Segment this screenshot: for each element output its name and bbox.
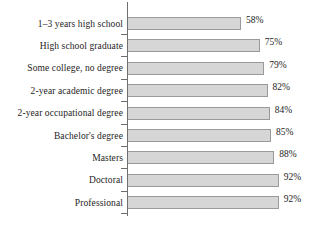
- bar: [128, 174, 279, 187]
- bar: [128, 39, 260, 52]
- category-label: Doctoral: [0, 175, 123, 186]
- category-label: Masters: [0, 153, 123, 164]
- bar-row: Bachelor's degree85%: [0, 125, 323, 147]
- bar-row: 2-year academic degree82%: [0, 80, 323, 102]
- bar: [128, 196, 279, 209]
- bar-value-label: 84%: [275, 104, 292, 116]
- bar-row: Some college, no degree79%: [0, 58, 323, 80]
- bar-container: [128, 39, 260, 52]
- bar-value-label: 92%: [284, 171, 301, 183]
- bar: [128, 62, 264, 75]
- category-label: High school graduate: [0, 41, 123, 52]
- bar-container: [128, 62, 264, 75]
- bar-value-label: 82%: [273, 81, 290, 93]
- bar-container: [128, 196, 279, 209]
- bar: [128, 17, 241, 30]
- bar-container: [128, 84, 268, 97]
- bar-row: High school graduate75%: [0, 35, 323, 57]
- bar-container: [128, 107, 270, 120]
- bar-row: 1–3 years high school58%: [0, 13, 323, 35]
- bar: [128, 107, 270, 120]
- bar: [128, 151, 274, 164]
- bar: [128, 84, 268, 97]
- bar-value-label: 92%: [284, 193, 301, 205]
- bar-value-label: 88%: [279, 148, 296, 160]
- plot-area: 1–3 years high school58%High school grad…: [0, 0, 323, 225]
- axis-tick: [121, 213, 127, 214]
- bar-value-label: 75%: [265, 36, 282, 48]
- bar: [128, 129, 271, 142]
- bar-row: 2-year occupational degree84%: [0, 103, 323, 125]
- bar-row: Professional92%: [0, 192, 323, 214]
- bar-row: Masters88%: [0, 147, 323, 169]
- category-label: Professional: [0, 198, 123, 209]
- bar-container: [128, 129, 271, 142]
- category-label: Bachelor's degree: [0, 131, 123, 142]
- bar-container: [128, 151, 274, 164]
- category-label: 2-year academic degree: [0, 86, 123, 97]
- bar-value-label: 85%: [276, 126, 293, 138]
- bar-row: Doctoral92%: [0, 170, 323, 192]
- category-label: Some college, no degree: [0, 63, 123, 74]
- bar-chart: 1–3 years high school58%High school grad…: [0, 0, 323, 225]
- bar-value-label: 58%: [246, 14, 263, 26]
- bar-container: [128, 17, 241, 30]
- category-label: 1–3 years high school: [0, 19, 123, 30]
- category-label: 2-year occupational degree: [0, 108, 123, 119]
- bar-value-label: 79%: [269, 59, 286, 71]
- bar-container: [128, 174, 279, 187]
